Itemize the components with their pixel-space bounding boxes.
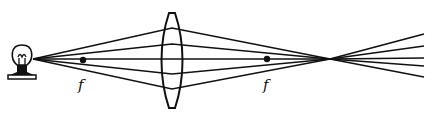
ray-diverging-0 [330,34,424,59]
diagram-canvas: ff [0,0,436,118]
left-focal-point-label: f [77,76,86,94]
right-focal-point-dot [264,56,270,62]
right-focal-point-label: f [262,76,271,94]
bulb-stand-base [8,75,36,79]
bulb-glass [12,45,31,65]
light-rays [33,28,424,89]
lens-diagram: ff [0,0,436,118]
ray-diverging-1 [330,46,424,59]
bulb-socket [17,65,27,72]
left-focal-point-dot [80,57,86,63]
light-bulb-icon [8,45,36,79]
ray-diverging-2 [330,58,424,59]
